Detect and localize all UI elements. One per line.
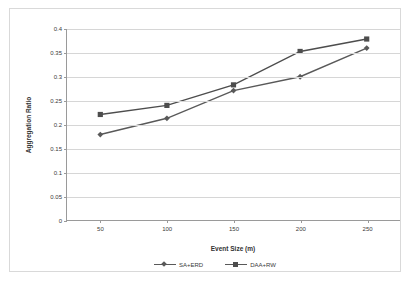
y-tick-label: 0.35 — [50, 50, 62, 56]
chart-frame: 00.050.10.150.20.250.30.350.450100150200… — [9, 8, 401, 272]
square-marker-icon — [225, 261, 247, 268]
y-tick-mark — [64, 221, 67, 222]
x-tick-mark — [100, 220, 101, 223]
data-point-marker — [97, 132, 103, 138]
y-tick-label: 0.2 — [54, 122, 62, 128]
x-tick-label: 150 — [229, 226, 239, 232]
y-tick-mark — [64, 149, 67, 150]
data-point-marker — [231, 88, 237, 94]
legend-item-2[interactable]: DAA+RW — [225, 261, 276, 268]
x-tick-label: 50 — [97, 226, 104, 232]
gridline — [67, 125, 400, 126]
x-tick-mark — [301, 220, 302, 223]
x-tick-label: 200 — [296, 226, 306, 232]
x-tick-mark — [167, 220, 168, 223]
legend-label: SA+ERD — [179, 262, 203, 268]
y-axis-title: Aggregation Ratio — [25, 97, 32, 153]
x-tick-mark — [368, 220, 369, 223]
data-point-marker — [164, 103, 169, 108]
data-point-marker — [231, 82, 236, 87]
x-axis-title: Event Size (m) — [66, 245, 400, 252]
chart-legend: SA+ERDDAA+RW — [19, 261, 411, 268]
data-point-marker — [164, 115, 170, 121]
gridline — [67, 101, 400, 102]
y-tick-label: 0.15 — [50, 146, 62, 152]
x-tick-mark — [234, 220, 235, 223]
y-tick-mark — [64, 173, 67, 174]
y-tick-mark — [64, 125, 67, 126]
y-tick-label: 0.3 — [54, 74, 62, 80]
y-tick-label: 0.1 — [54, 170, 62, 176]
legend-item-1[interactable]: SA+ERD — [154, 261, 203, 268]
gridline — [67, 53, 400, 54]
y-tick-label: 0 — [59, 218, 62, 224]
y-tick-mark — [64, 101, 67, 102]
y-tick-mark — [64, 53, 67, 54]
gridline — [67, 29, 400, 30]
y-tick-mark — [64, 197, 67, 198]
diamond-marker-icon — [154, 261, 176, 268]
x-tick-label: 100 — [162, 226, 172, 232]
y-tick-label: 0.25 — [50, 98, 62, 104]
y-tick-label: 0.4 — [54, 26, 62, 32]
legend-label: DAA+RW — [250, 262, 276, 268]
gridline — [67, 197, 400, 198]
data-point-marker — [364, 45, 370, 51]
gridline — [67, 173, 400, 174]
data-point-marker — [98, 112, 103, 117]
data-point-marker — [364, 36, 369, 41]
y-tick-mark — [64, 77, 67, 78]
gridline — [67, 77, 400, 78]
gridline — [67, 149, 400, 150]
x-tick-label: 250 — [363, 226, 373, 232]
y-tick-label: 0.05 — [50, 194, 62, 200]
plot-area: 00.050.10.150.20.250.30.350.450100150200… — [66, 29, 400, 221]
y-tick-mark — [64, 29, 67, 30]
chart-figure: 00.050.10.150.20.250.30.350.450100150200… — [0, 0, 413, 287]
